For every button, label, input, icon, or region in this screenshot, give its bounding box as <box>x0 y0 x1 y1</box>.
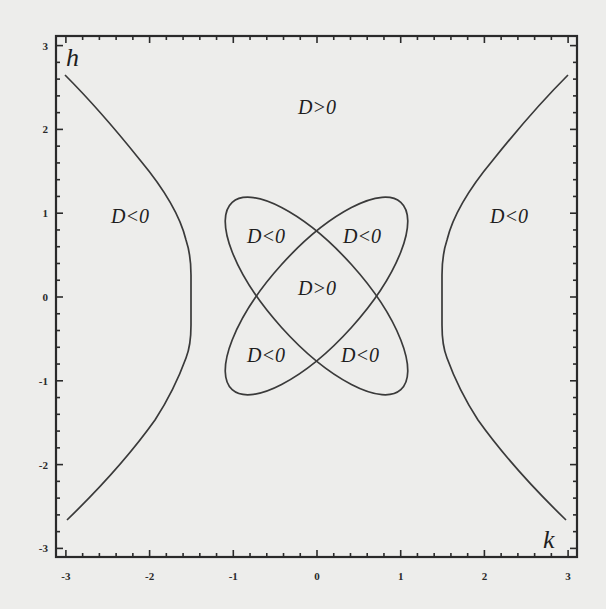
x-axis-name: k <box>543 525 555 554</box>
region-label-top: D>0 <box>297 96 336 118</box>
axis-tick-labels: -3-2-10123-3-2-10123 <box>39 40 572 582</box>
y-tick-label: -2 <box>39 459 49 471</box>
x-tick-label: 0 <box>314 570 320 582</box>
region-label-petal-upper-left: D<0 <box>246 225 285 247</box>
region-label-right-outer: D<0 <box>489 205 528 227</box>
left-hyperbola-branch <box>65 75 191 520</box>
y-tick-label: 0 <box>43 291 49 303</box>
x-tick-label: 1 <box>398 570 404 582</box>
region-label-petal-lower-left: D<0 <box>246 344 285 366</box>
x-tick-label: -2 <box>145 570 155 582</box>
x-tick-label: -3 <box>61 570 71 582</box>
y-tick-label: 3 <box>43 40 49 52</box>
y-tick-label: 2 <box>43 123 49 135</box>
x-tick-label: -1 <box>229 570 238 582</box>
y-tick-label: -3 <box>39 542 49 554</box>
region-label-petal-upper-right: D<0 <box>342 225 381 247</box>
region-label-petal-lower-right: D<0 <box>340 344 379 366</box>
region-label-left-outer: D<0 <box>110 205 149 227</box>
y-tick-label: 1 <box>43 207 49 219</box>
y-tick-label: -1 <box>39 375 48 387</box>
x-tick-label: 3 <box>565 570 571 582</box>
region-label-center: D>0 <box>297 277 336 299</box>
discriminant-region-plot: -3-2-10123-3-2-10123 h k D>0 D<0 D<0 D<0… <box>0 0 606 609</box>
y-axis-name: h <box>66 43 79 72</box>
right-hyperbola-branch <box>442 75 568 520</box>
x-tick-label: 2 <box>482 570 488 582</box>
